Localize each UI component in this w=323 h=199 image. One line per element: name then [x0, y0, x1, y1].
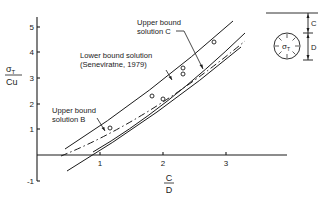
y-tick-1: 1: [30, 125, 35, 134]
inset-label-d: D: [311, 43, 317, 52]
svg-text:Cu: Cu: [6, 77, 18, 87]
y-tick-labels: 5 4 3 2 1 -1: [27, 23, 35, 186]
annotation-upper-bound-b: Upper bound solution B: [52, 106, 105, 131]
x-axis-label: C D: [164, 173, 174, 195]
svg-text:(Seneviratne, 1979): (Seneviratne, 1979): [80, 60, 147, 69]
y-tick-5: 5: [30, 23, 35, 32]
x-tick-1: 1: [98, 159, 103, 168]
svg-text:Upper bound: Upper bound: [52, 106, 96, 115]
y-axis-label: σT Cu: [5, 64, 22, 87]
x-tick-2: 2: [161, 159, 166, 168]
x-tick-3: 3: [224, 159, 229, 168]
x-tick-labels: 1 2 3: [98, 159, 229, 168]
svg-text:Upper bound: Upper bound: [137, 18, 181, 27]
chart: 5 4 3 2 1 -1 1 2 3 σT Cu C D Upp: [0, 0, 323, 199]
svg-text:solution B: solution B: [52, 115, 85, 124]
y-tick-2: 2: [30, 100, 35, 109]
inset-label-c: C: [311, 19, 317, 28]
svg-text:Lower bound solution: Lower bound solution: [80, 51, 152, 60]
svg-text:σT: σT: [6, 64, 16, 75]
svg-text:D: D: [166, 185, 173, 195]
svg-text:solution C: solution C: [137, 27, 171, 36]
annotation-lower-bound: Lower bound solution (Seneviratne, 1979): [80, 51, 172, 80]
y-tick-4: 4: [30, 48, 35, 57]
curve-upper-bound-b: [65, 21, 233, 149]
y-tick-3: 3: [30, 74, 35, 83]
annotation-upper-bound-c: Upper bound solution C: [137, 18, 203, 69]
inset-label-sigma: σT: [282, 42, 290, 52]
svg-text:C: C: [166, 173, 173, 183]
y-tick-neg1: -1: [27, 177, 35, 186]
